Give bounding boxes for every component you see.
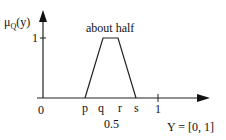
y-axis-arrow-icon [39, 10, 47, 22]
x-tick-label-p: p [82, 102, 88, 114]
x-tick-one-label: 1 [155, 103, 161, 115]
diagram-title: about half [86, 22, 134, 34]
x-tick-label-q: q [98, 102, 104, 114]
trapezoid-membership-curve [85, 38, 136, 98]
x-tick-label-s: s [134, 102, 139, 114]
y-tick-label: 1 [32, 32, 38, 44]
y-axis-label: μQ(y) [4, 16, 30, 33]
center-value-label: 0.5 [104, 118, 119, 130]
origin-label: 0 [38, 104, 44, 116]
domain-label: Y = [0, 1] [167, 121, 214, 133]
x-tick-label-r: r [118, 102, 122, 114]
x-axis-arrow-icon [197, 94, 210, 102]
